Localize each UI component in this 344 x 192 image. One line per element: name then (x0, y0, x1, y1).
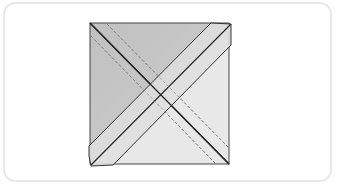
folded-square-diagram (0, 0, 344, 192)
